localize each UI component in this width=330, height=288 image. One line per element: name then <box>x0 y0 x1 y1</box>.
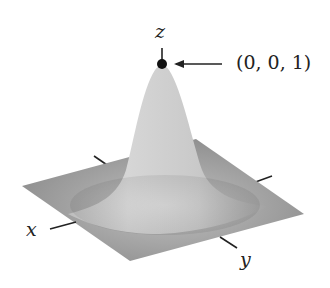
y-axis-front-tick <box>220 237 237 248</box>
x-axis-label: x <box>26 220 37 239</box>
annotation-arrow-head <box>174 60 184 68</box>
peak-shading <box>70 175 260 235</box>
surface-plot <box>0 0 330 288</box>
z-axis-label: z <box>155 22 165 41</box>
x-axis-front-tick <box>50 222 76 229</box>
peak-coordinate-label: (0, 0, 1) <box>236 53 311 72</box>
y-axis-label: y <box>240 250 251 269</box>
peak-point-marker <box>157 59 167 69</box>
